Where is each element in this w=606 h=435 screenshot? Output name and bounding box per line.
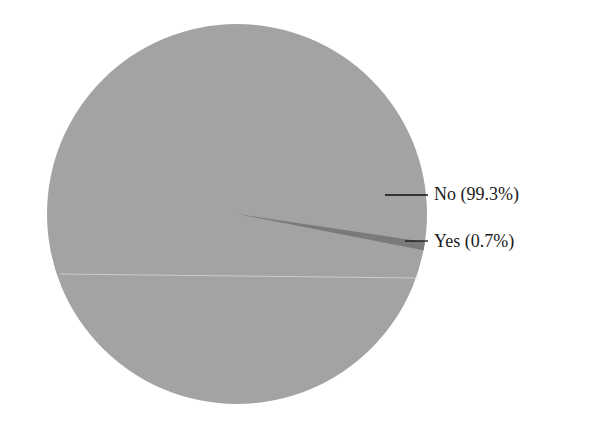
label-yes: Yes (0.7%) — [434, 231, 514, 251]
label-no: No (99.3%) — [434, 184, 519, 204]
pie-chart — [0, 0, 606, 435]
